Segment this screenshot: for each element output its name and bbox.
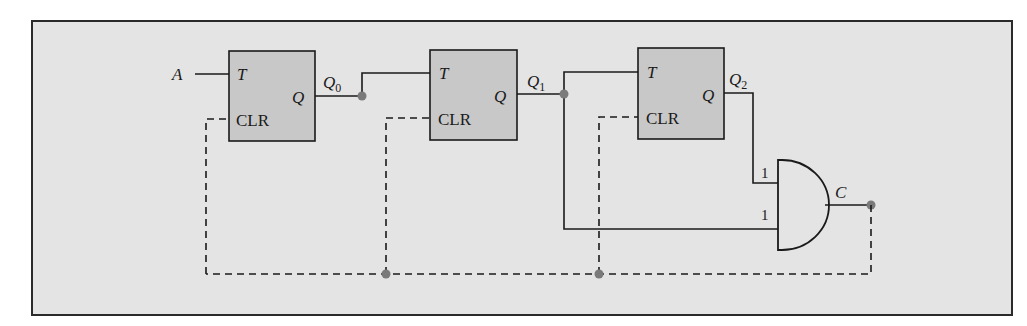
ff2-q-label: Q bbox=[702, 86, 714, 105]
flip-flop-2: T Q CLR bbox=[638, 48, 724, 139]
ff2-clr-label: CLR bbox=[646, 109, 680, 128]
clr-node-1 bbox=[382, 270, 391, 279]
ff2-t-label: T bbox=[647, 63, 658, 82]
flip-flop-1: T Q CLR bbox=[430, 50, 517, 140]
q1-node bbox=[560, 90, 569, 99]
ff0-clr-label: CLR bbox=[236, 111, 270, 130]
ff1-clr-label: CLR bbox=[438, 110, 472, 129]
ff1-t-label: T bbox=[439, 64, 450, 83]
input-label-a: A bbox=[171, 65, 183, 84]
and-input-label-1: 1 bbox=[761, 165, 769, 181]
ff1-q-label: Q bbox=[494, 87, 506, 106]
counter-circuit-diagram: A T Q CLR Q0 T Q CLR Q1 T Q CLR Q2 1 1 C bbox=[0, 0, 1027, 326]
output-label-c: C bbox=[835, 183, 847, 202]
ff0-t-label: T bbox=[237, 65, 248, 84]
and-input-label-2: 1 bbox=[761, 207, 769, 223]
clr-node-2 bbox=[595, 270, 604, 279]
q0-node bbox=[358, 92, 367, 101]
flip-flop-0: T Q CLR bbox=[229, 51, 315, 141]
ff0-q-label: Q bbox=[292, 88, 304, 107]
